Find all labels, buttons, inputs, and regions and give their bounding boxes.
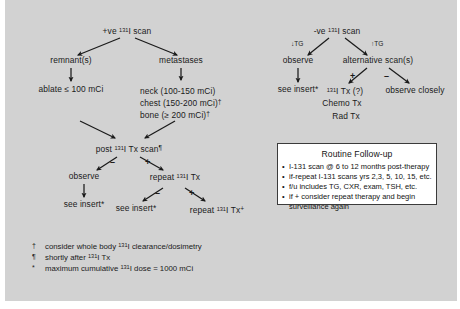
list-item: f/u includes TG, CXR, exam, TSH, etc.: [289, 182, 432, 192]
label-tg-up: ↑TG: [371, 40, 383, 47]
footnote-asterisk: *maximum cumulative 131I dose = 1000 mCi: [32, 262, 193, 274]
followup-list: I-131 scan @ 6 to 12 months post-therapy…: [278, 162, 436, 211]
node-repeat-tx-plus: repeat 131I Tx+: [190, 203, 244, 216]
footnote-symbol: †: [32, 240, 43, 251]
diagram-panel: +ve 131I scan remnant(s) metastases abla…: [5, 0, 457, 301]
node-see-insert-repeat: see insert*: [116, 203, 157, 214]
node-see-insert-left: see insert*: [64, 199, 105, 210]
followup-title: Routine Follow-up: [278, 149, 436, 159]
node-chemo-tx: Chemo Tx: [322, 98, 361, 109]
node-observe-closely: observe closely: [385, 85, 444, 96]
node-ablate-dose: ablate ≤ 100 mCi: [39, 84, 104, 95]
node-dose-bone: bone (≥ 200 mCi)†: [140, 108, 210, 121]
sign-post-scan-negative: –: [110, 158, 115, 167]
node-observe-left: observe: [69, 171, 100, 182]
sign-alt-negative: –: [384, 72, 389, 81]
label-tg-down: ↓TG: [291, 40, 303, 47]
node-repeat-tx: repeat 131I Tx: [150, 171, 200, 183]
node-positive-scan: +ve 131I scan: [103, 25, 152, 37]
node-see-insert-right: see insert*: [278, 84, 319, 95]
list-item: I-131 scan @ 6 to 12 months post-therapy: [289, 162, 432, 172]
sign-alt-positive: +: [350, 72, 355, 81]
sign-repeat-positive: +: [189, 189, 194, 198]
list-item: if-repeat I-131 scans yrs 2,3, 5, 10, 15…: [289, 172, 432, 182]
node-negative-scan: -ve 131I scan: [314, 25, 361, 37]
footnote-symbol: ¶: [32, 251, 43, 262]
node-metastases: metastases: [159, 55, 203, 66]
node-post-tx-scan: post 131I Tx scan¶: [96, 142, 162, 155]
footnote-symbol: *: [32, 262, 43, 273]
node-i131-tx-question: 131I Tx (?): [327, 85, 364, 97]
node-observe-right: observe: [283, 55, 314, 66]
sign-post-scan-positive: +: [145, 158, 150, 167]
sign-repeat-negative: –: [155, 189, 160, 198]
node-alternative-scans: alternative scan(s): [343, 55, 413, 66]
routine-followup-box: Routine Follow-up I-131 scan @ 6 to 12 m…: [277, 143, 437, 205]
node-remnants: remnant(s): [50, 55, 92, 66]
list-item: if + consider repeat therapy and begin s…: [289, 192, 432, 211]
node-rad-tx: Rad Tx: [332, 111, 359, 122]
